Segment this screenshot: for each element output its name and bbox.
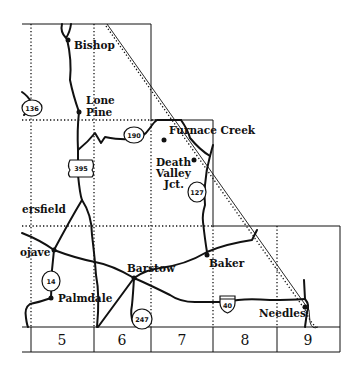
map: Bishop Lone Pine Furnace Creek Death Val… (0, 0, 362, 379)
city-label-bakersfield: ersfield (22, 203, 66, 215)
mojave-marker (52, 248, 57, 253)
city-label-barstow: Barstow (127, 262, 176, 274)
palmdale-marker (49, 296, 54, 301)
svg-text:40: 40 (223, 302, 233, 310)
route-127-shield: 127 (188, 182, 206, 202)
route-14-shield: 14 (42, 271, 60, 291)
city-label-needles: Needles (259, 307, 306, 319)
furnace-creek-marker (162, 138, 167, 143)
route-247-shield: 247 (132, 309, 152, 329)
grid-column-6: 6 (118, 332, 127, 348)
barstow-marker (132, 276, 137, 281)
city-label-palmdale: Palmdale (58, 292, 113, 304)
svg-text:136: 136 (25, 105, 39, 113)
bishop-marker (66, 38, 71, 43)
us-395-shield: 395 (69, 160, 94, 177)
route-190-shield: 190 (124, 127, 144, 143)
svg-text:190: 190 (127, 132, 141, 140)
svg-text:247: 247 (135, 316, 149, 324)
lone-pine-marker (77, 110, 82, 115)
grid-column-5: 5 (58, 332, 67, 348)
route-136-shield: 136 (22, 100, 42, 116)
city-label-furnace-creek: Furnace Creek (169, 124, 256, 136)
city-label-bishop: Bishop (74, 39, 115, 51)
state-border (106, 24, 318, 328)
grid-column-7: 7 (178, 332, 187, 348)
svg-text:127: 127 (190, 189, 204, 197)
city-label-mojave: ojave (20, 246, 51, 258)
grid-column-8: 8 (241, 332, 250, 348)
death-valley-jct-marker (192, 158, 197, 163)
svg-text:14: 14 (46, 278, 56, 286)
city-label-lone-pine-2: Pine (86, 106, 113, 118)
city-label-death-valley-3: Jct. (163, 178, 184, 190)
grid-column-9: 9 (304, 332, 313, 348)
city-label-lone-pine: Lone (86, 94, 115, 106)
svg-text:395: 395 (74, 165, 88, 173)
interstate-40-shield: 40 (220, 296, 235, 313)
city-label-baker: Baker (209, 257, 245, 269)
